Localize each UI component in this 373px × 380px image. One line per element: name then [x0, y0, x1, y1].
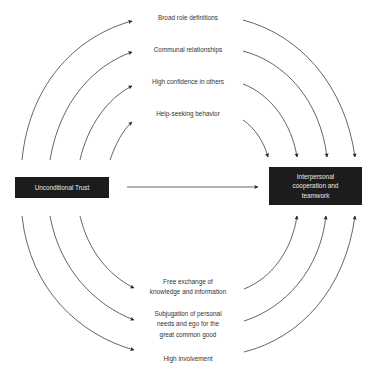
arrow-trust-to-help-seeking — [110, 122, 132, 160]
arrow-free-exchange-to-teamwork — [244, 216, 297, 289]
upper-left-arrows — [22, 21, 132, 160]
label-high-confidence: High confidence in others — [152, 77, 224, 87]
label-subjugation-line-1: Subjugation of personal — [154, 309, 221, 319]
node-unconditional-trust: Unconditional Trust — [15, 177, 109, 198]
label-free-exchange: Free exchange of knowledge and informati… — [150, 277, 226, 298]
arrow-trust-to-free-exchange — [80, 216, 134, 288]
arrow-trust-to-communal — [50, 52, 132, 160]
arrow-subjugation-to-teamwork — [244, 216, 326, 321]
arrow-confidence-to-teamwork — [243, 84, 297, 157]
node-target-line-3: teamwork — [293, 191, 339, 201]
label-free-exchange-line-1: Free exchange of — [150, 277, 226, 287]
label-broad-role-definitions: Broad role definitions — [158, 13, 218, 23]
label-subjugation-line-3: great common good — [154, 330, 221, 340]
label-high-involvement: High involvement — [163, 354, 212, 364]
arrow-broad-role-to-teamwork — [243, 20, 355, 157]
node-target-line-2: cooperation and — [293, 181, 339, 191]
node-interpersonal-cooperation: Interpersonal cooperation and teamwork — [269, 167, 362, 205]
arrow-communal-to-teamwork — [243, 51, 327, 157]
arrow-trust-to-involvement — [22, 216, 134, 350]
upper-right-arrows — [243, 20, 355, 157]
arrow-help-seeking-to-teamwork — [243, 120, 268, 157]
label-free-exchange-line-2: knowledge and information — [150, 287, 226, 297]
label-communal-relationships: Communal relationships — [154, 45, 223, 55]
arrow-trust-to-confidence — [80, 86, 132, 160]
lower-left-arrows — [22, 216, 134, 350]
label-subjugation-line-2: needs and ego for the — [154, 319, 221, 329]
label-subjugation: Subjugation of personal needs and ego fo… — [154, 309, 221, 340]
arrow-involvement-to-teamwork — [244, 216, 355, 352]
lower-right-arrows — [244, 216, 355, 352]
arrow-trust-to-broad-role — [22, 21, 132, 160]
arrow-trust-to-subjugation — [50, 216, 134, 320]
node-unconditional-trust-label: Unconditional Trust — [35, 183, 90, 193]
node-target-line-1: Interpersonal — [293, 172, 339, 182]
label-help-seeking: Help-seeking behavior — [156, 109, 220, 119]
